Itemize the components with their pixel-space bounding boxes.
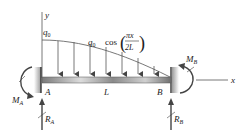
svg-text:2L: 2L	[125, 43, 134, 52]
moment-b-label: MB	[185, 54, 198, 65]
moment-a-arrow	[21, 67, 32, 96]
y-axis-label: y	[44, 10, 49, 20]
moment-a-label: MA	[11, 95, 24, 106]
point-b-label: B	[157, 87, 163, 97]
svg-text:q0: q0	[88, 37, 96, 48]
moment-b-arrow	[180, 66, 193, 93]
svg-text:πx: πx	[126, 31, 134, 40]
beam	[42, 77, 171, 83]
reaction-b-label: RB	[173, 114, 184, 125]
reaction-a-label: RA	[44, 114, 55, 125]
left-wall	[34, 67, 41, 93]
svg-text:): )	[139, 33, 145, 54]
max-load-label: q0	[43, 27, 51, 38]
svg-text:cos: cos	[105, 37, 117, 47]
right-wall	[172, 67, 179, 93]
length-label: L	[103, 87, 109, 97]
beam-diagram: y x q0 q0 cos ( πx 2L ) A L B	[0, 0, 245, 137]
x-axis-label: x	[230, 75, 235, 85]
load-expression: q0 cos ( πx 2L )	[88, 31, 145, 54]
point-a-label: A	[44, 87, 51, 97]
